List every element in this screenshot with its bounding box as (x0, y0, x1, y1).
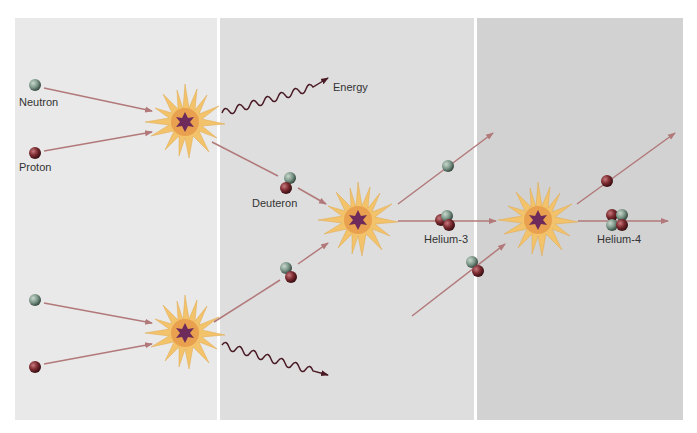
deuteron-proton-icon (280, 182, 292, 194)
proton-out-path-4 (577, 133, 675, 204)
neutron-label: Neutron (19, 96, 58, 108)
proton-out-icon (442, 160, 454, 172)
fusion-burst-icon (145, 295, 225, 369)
fusion-burst-icon (318, 182, 398, 256)
proton-label: Proton (19, 161, 51, 173)
energy-wave-1 (222, 78, 328, 114)
energy-label: Energy (333, 81, 368, 93)
deuteron-proton-icon (285, 271, 297, 283)
helium3-proton-icon (443, 219, 455, 231)
deuteron-label: Deuteron (252, 197, 297, 209)
fusion-burst-icon (498, 182, 578, 256)
proton-icon (29, 147, 41, 159)
proton-path-2 (44, 344, 152, 364)
deuteron-path-2 (214, 280, 280, 322)
helium4-label: Helium-4 (597, 233, 641, 245)
neutron-icon (29, 294, 41, 306)
fusion-diagram (0, 0, 697, 433)
neutron-path-1 (44, 88, 152, 111)
energy-wave-2 (222, 342, 328, 375)
neutron-icon (29, 79, 41, 91)
helium3-label: Helium-3 (424, 233, 468, 245)
deuteron-proton-icon (472, 265, 484, 277)
proton-path-1 (44, 132, 152, 151)
proton-out-icon (601, 175, 613, 187)
neutron-path-2 (44, 303, 152, 323)
deuteron-path-1 (212, 142, 278, 176)
fusion-burst-icon (145, 84, 225, 158)
deuteron-path-2b (298, 243, 328, 264)
proton-icon (29, 361, 41, 373)
deuteron-in-path (412, 244, 505, 316)
helium4-proton-icon (616, 219, 628, 231)
deuteron-path-1b (298, 188, 326, 204)
